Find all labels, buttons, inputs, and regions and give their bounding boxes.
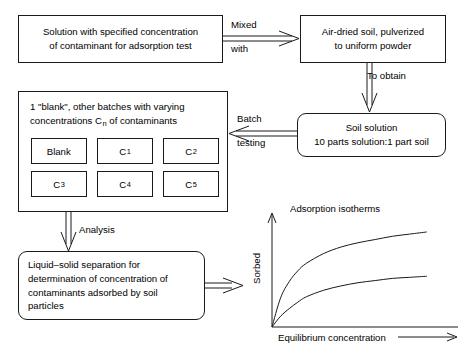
chart-x-label-arrow <box>398 333 457 341</box>
arrow-to-obtain <box>362 63 377 112</box>
chart-y-axis <box>268 213 276 327</box>
adsorption-isotherm-chart: Adsorption isotherms Sorbed Equilibrium … <box>244 203 464 351</box>
chart-y-axis-label: Sorbed <box>251 239 262 299</box>
isotherm-curve-lower <box>272 276 427 327</box>
flowchart-diagram: Solution with specified concentration of… <box>0 0 464 351</box>
arrow-batch-testing <box>229 126 297 141</box>
arrow-mixed-with <box>223 31 299 46</box>
arrow-analysis <box>61 212 76 251</box>
isotherm-curve-upper <box>272 232 427 327</box>
arrow-to-chart <box>205 278 243 293</box>
chart-title: Adsorption isotherms <box>290 203 380 214</box>
chart-x-axis-label: Equilibrium concentration <box>278 332 386 343</box>
chart-plot-area <box>244 203 464 351</box>
